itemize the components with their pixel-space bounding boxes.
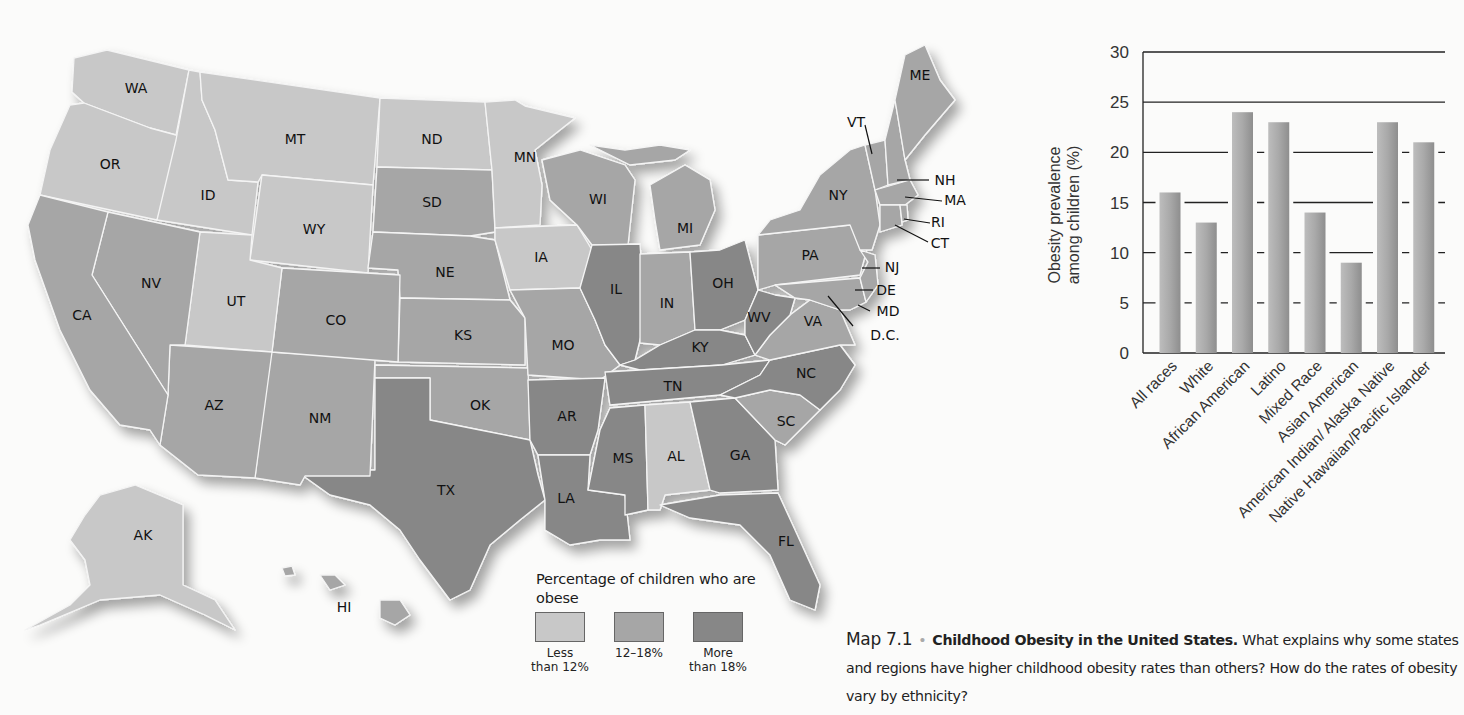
state-label-nd: ND <box>421 131 442 147</box>
state-label-nm: NM <box>309 410 332 426</box>
state-label-id: ID <box>201 187 216 203</box>
chart-y-ticks: 051015202530 <box>1110 43 1129 363</box>
state-label-ok: OK <box>470 397 491 413</box>
state-label-va: VA <box>804 313 823 329</box>
state-label-nc: NC <box>796 365 816 381</box>
y-tick-label: 25 <box>1110 93 1129 112</box>
state-label-in: IN <box>660 295 675 311</box>
map-legend: Percentage of children who are obese Les… <box>536 570 796 682</box>
state-label-il: IL <box>610 281 622 297</box>
legend-item-mid: 12–18% <box>599 612 679 660</box>
state-label-ny: NY <box>828 187 847 203</box>
chart-x-ticks: All racesWhiteAfrican AmericanLatinoMixe… <box>1126 357 1434 526</box>
obesity-by-ethnicity-bar-chart: 051015202530 All racesWhiteAfrican Ameri… <box>1000 30 1464 630</box>
state-ME <box>895 45 955 160</box>
bar-latino <box>1268 122 1289 353</box>
state-label-or: OR <box>100 156 121 172</box>
bar-african-american <box>1232 112 1253 353</box>
bar-white <box>1196 223 1217 353</box>
caption-title: Childhood Obesity in the United States. <box>932 632 1238 648</box>
state-label-ky: KY <box>691 339 709 355</box>
bar-native-hawaiian-pacific-islander <box>1413 142 1434 353</box>
state-label-fl: FL <box>778 533 794 549</box>
state-HI-3 <box>282 566 295 576</box>
x-tick-label: All races <box>1126 357 1180 411</box>
state-label-ia: IA <box>534 249 548 265</box>
state-label-ma: MA <box>944 192 966 208</box>
state-label-mn: MN <box>514 149 537 165</box>
state-AK <box>25 485 235 630</box>
state-label-ms: MS <box>613 450 634 466</box>
y-tick-label: 10 <box>1110 244 1129 263</box>
state-label-nv: NV <box>141 275 161 291</box>
y-tick-label: 15 <box>1110 194 1129 213</box>
legend-swatch-high <box>693 612 743 642</box>
y-tick-label: 20 <box>1110 143 1129 162</box>
state-label-az: AZ <box>204 397 223 413</box>
state-label-wy: WY <box>303 221 326 237</box>
state-label-la: LA <box>557 490 575 506</box>
state-label-md: MD <box>877 303 900 319</box>
bar-all-races <box>1160 192 1181 353</box>
state-label-ar: AR <box>557 408 577 424</box>
chart-y-axis-label: Obesity prevalenceamong children (%) <box>1046 146 1082 285</box>
state-label-mi: MI <box>677 220 693 236</box>
caption-bullet: • <box>918 632 926 648</box>
legend-items: Less than 12% 12–18% More than 18% <box>536 612 796 682</box>
bar-asian-american <box>1341 263 1362 353</box>
state-CT <box>880 205 902 232</box>
y-tick-label: 5 <box>1120 294 1129 313</box>
us-obesity-map: WAORMTIDWYNDSDMNWIMINYVTMENHMARICTNJDEMD… <box>0 0 1000 715</box>
bar-american-indian-alaska-native <box>1377 122 1398 353</box>
state-label-ct: CT <box>931 235 950 251</box>
state-label-ks: KS <box>454 327 472 343</box>
legend-label-high: More than 18% <box>678 646 758 674</box>
state-label-dc: D.C. <box>870 327 899 343</box>
state-label-pa: PA <box>801 247 819 263</box>
y-tick-label: 30 <box>1110 43 1129 62</box>
state-label-ri: RI <box>931 214 945 230</box>
state-label-tn: TN <box>662 378 682 394</box>
state-label-de: DE <box>876 282 896 298</box>
state-label-vt: VT <box>847 114 866 130</box>
legend-label-mid: 12–18% <box>599 646 679 660</box>
figure-number: Map 7.1 <box>846 629 912 649</box>
state-label-wi: WI <box>589 191 607 207</box>
state-label-nh: NH <box>935 172 956 188</box>
state-label-me: ME <box>910 67 931 83</box>
state-label-al: AL <box>667 448 685 464</box>
state-HI-2 <box>320 575 345 590</box>
legend-swatch-mid <box>614 612 664 642</box>
state-label-ca: CA <box>72 307 92 323</box>
legend-item-high: More than 18% <box>678 612 758 674</box>
state-label-wv: WV <box>747 309 771 325</box>
state-label-mt: MT <box>285 131 306 147</box>
state-label-sc: SC <box>777 413 796 429</box>
state-label-oh: OH <box>712 275 734 291</box>
y-tick-label: 0 <box>1120 344 1129 363</box>
state-label-ak: AK <box>134 527 154 543</box>
legend-label-low: Less than 12% <box>520 646 600 674</box>
state-label-ut: UT <box>227 293 246 309</box>
state-label-hi: HI <box>337 599 352 615</box>
legend-title: Percentage of children who are obese <box>536 570 796 608</box>
bar-mixed-race <box>1305 213 1326 353</box>
state-MI <box>650 165 715 250</box>
figure-caption: Map 7.1•Childhood Obesity in the United … <box>846 625 1464 710</box>
state-label-co: CO <box>326 312 347 328</box>
state-label-sd: SD <box>422 194 442 210</box>
state-HI <box>380 600 410 625</box>
state-label-wa: WA <box>125 80 148 96</box>
legend-item-low: Less than 12% <box>520 612 600 674</box>
state-label-ne: NE <box>435 264 454 280</box>
state-MT <box>200 72 380 185</box>
legend-swatch-low <box>535 612 585 642</box>
state-label-tx: TX <box>436 482 456 498</box>
state-label-nj: NJ <box>885 259 900 275</box>
state-label-ga: GA <box>730 447 751 463</box>
chart-bars <box>1156 112 1439 353</box>
state-label-mo: MO <box>551 337 574 353</box>
